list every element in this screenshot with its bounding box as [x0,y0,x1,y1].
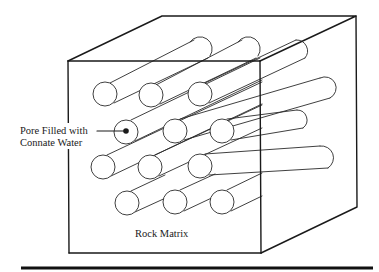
pore-r2c3 [210,119,234,143]
pore-r2c2 [163,119,187,143]
pore-r1c3 [188,82,212,106]
pore-label-line2: Connate Water [20,137,83,148]
cube-top-face [68,16,356,61]
pore-r1c1 [93,82,117,106]
pore-openings [91,82,234,215]
pore-r3c3 [188,154,212,178]
tube-r1c3 [205,40,308,103]
pore-r4c3 [210,190,234,214]
pore-r3c1 [91,155,115,179]
tube-r3c3 [205,146,334,175]
pore-r4c2 [163,190,187,214]
pore-r1c2 [139,83,163,107]
cube-right-face [261,16,357,253]
pore-r4c1 [115,191,139,215]
rock-matrix-label: Rock Matrix [135,228,189,239]
rock-matrix-pore-diagram: Pore Filled with Connate Water Rock Matr… [0,0,379,272]
pore-label-line1: Pore Filled with [20,125,88,136]
callout-dot [123,128,129,134]
pore-r3c2 [138,155,162,179]
